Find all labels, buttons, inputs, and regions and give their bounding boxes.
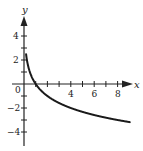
x-axis-label: x	[134, 79, 140, 90]
y-axis-arrow-icon	[21, 16, 28, 26]
y-axis-label: y	[21, 4, 28, 15]
y-tick-label-neg2: −2	[7, 103, 20, 113]
y-tick-label-4: 4	[13, 31, 19, 41]
y-tick-label-neg4: −4	[7, 127, 21, 137]
y-tick-label-2: 2	[13, 55, 19, 65]
x-tick-label-6: 6	[92, 89, 98, 99]
x-axis-arrow-icon	[122, 81, 133, 88]
x-tick-label-4: 4	[68, 89, 74, 99]
chart-canvas: y x 0 4 6 8 4 2 −2 −4	[0, 0, 143, 151]
x-tick-label-8: 8	[115, 89, 121, 99]
origin-label: 0	[15, 85, 21, 95]
